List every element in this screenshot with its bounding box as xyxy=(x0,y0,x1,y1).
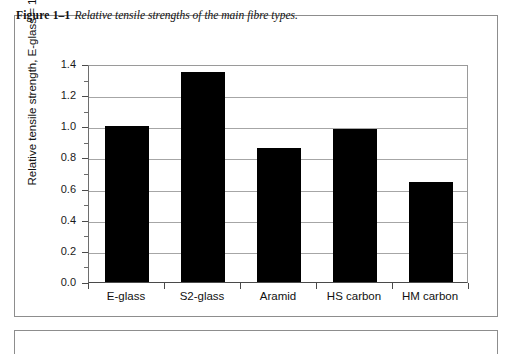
x-axis-tick-end xyxy=(88,283,89,289)
y-axis-tick-label: 0.4 xyxy=(50,215,76,226)
x-axis-tick-label: S2-glass xyxy=(164,290,240,303)
plot-area xyxy=(88,65,468,283)
x-axis-tick-label: E-glass xyxy=(88,290,164,303)
x-axis-tick-label: Aramid xyxy=(240,290,316,303)
x-axis-tick-label: HS carbon xyxy=(316,290,392,303)
bar xyxy=(333,129,377,282)
x-axis-tick-end xyxy=(468,283,469,289)
x-axis-tick xyxy=(164,283,165,289)
bar xyxy=(409,182,453,282)
x-axis-tick xyxy=(392,283,393,289)
bar xyxy=(181,72,225,282)
bar xyxy=(257,148,301,282)
y-axis-tick-label: 1.2 xyxy=(50,90,76,101)
y-axis-title: Relative tensile strength, E-glass = 1 xyxy=(26,0,38,187)
x-axis-tick xyxy=(240,283,241,289)
y-axis-tick-label: 0.6 xyxy=(50,184,76,195)
y-axis-tick-label: 0.8 xyxy=(50,152,76,163)
bar xyxy=(105,126,149,282)
y-axis-tick-label: 0.2 xyxy=(50,246,76,257)
x-axis-tick-label: HM carbon xyxy=(392,290,468,303)
y-axis-tick-label: 0.0 xyxy=(50,277,76,288)
y-axis-tick-label: 1.0 xyxy=(50,121,76,132)
x-axis-tick xyxy=(316,283,317,289)
y-axis-tick-label: 1.4 xyxy=(50,59,76,70)
gridline xyxy=(89,97,467,98)
